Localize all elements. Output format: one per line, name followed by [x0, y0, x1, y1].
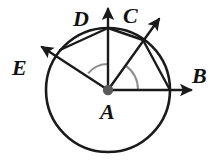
geometry-canvas	[0, 0, 216, 164]
label-A: A	[100, 101, 115, 123]
angle-arc-b-a-c	[125, 65, 138, 90]
label-C: C	[123, 5, 138, 27]
angle-arc-e-a-d	[88, 64, 108, 73]
chord-e-d	[60, 28, 108, 50]
label-B: B	[192, 65, 207, 87]
label-D: D	[73, 8, 89, 30]
label-E: E	[12, 57, 27, 79]
geometry-figure: A B C D E	[0, 0, 216, 164]
ray-a-e	[42, 47, 108, 90]
center-point-dot	[103, 85, 113, 95]
